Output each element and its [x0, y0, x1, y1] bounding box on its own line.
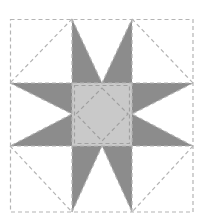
- bottom-star-point-unit: [72, 146, 132, 212]
- top-star-point-unit: [72, 19, 132, 83]
- quilt-block-diagram: [0, 0, 205, 215]
- center-square: [72, 83, 132, 146]
- left-star-point-unit: [10, 83, 72, 146]
- right-star-point-unit: [132, 83, 193, 146]
